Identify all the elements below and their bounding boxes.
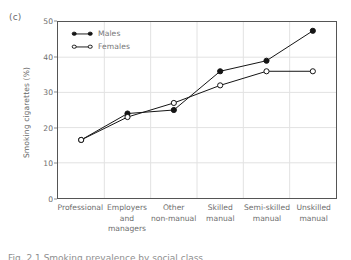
y-tick-label-30: 30 xyxy=(31,88,53,97)
y-tick-label-40: 40 xyxy=(31,52,53,61)
legend-label: Females xyxy=(98,42,130,51)
data-point-males-4 xyxy=(264,58,269,63)
y-axis-tick-labels: 01020304050 xyxy=(27,21,53,199)
data-point-females-0 xyxy=(79,137,84,142)
data-point-males-5 xyxy=(310,28,315,33)
series-line-females xyxy=(81,71,313,140)
x-tick-label-line: Unskilled xyxy=(281,203,347,214)
panel-label: (c) xyxy=(9,12,22,22)
data-point-females-2 xyxy=(171,100,176,105)
legend-item-females: Females xyxy=(71,40,130,53)
legend-marker-filled-circle xyxy=(71,28,93,39)
legend-marker-open-circle xyxy=(71,41,93,52)
figure-panel-c: (c) Smoking cigarettes (%) 01020304050 P… xyxy=(0,0,351,260)
data-point-females-3 xyxy=(218,83,223,88)
data-point-females-5 xyxy=(310,69,315,74)
x-tick-label-line: manual xyxy=(281,214,347,225)
y-tick-label-50: 50 xyxy=(31,17,53,26)
y-tick-label-20: 20 xyxy=(31,123,53,132)
y-tick-label-10: 10 xyxy=(31,159,53,168)
legend-item-males: Males xyxy=(71,27,130,40)
data-point-females-4 xyxy=(264,69,269,74)
x-axis-tick-labels: ProfessionalEmployersandmanagersOthernon… xyxy=(57,203,337,257)
legend-label: Males xyxy=(98,29,120,38)
figure-caption-fragment: Fig. 2.1 Smoking prevalence by social cl… xyxy=(8,253,348,260)
data-point-males-2 xyxy=(171,107,176,112)
data-point-females-1 xyxy=(125,114,130,119)
x-tick-label-5: Unskilledmanual xyxy=(281,203,347,224)
x-tick-label-line: managers xyxy=(94,224,160,235)
data-point-males-3 xyxy=(218,69,223,74)
legend: MalesFemales xyxy=(68,25,133,55)
